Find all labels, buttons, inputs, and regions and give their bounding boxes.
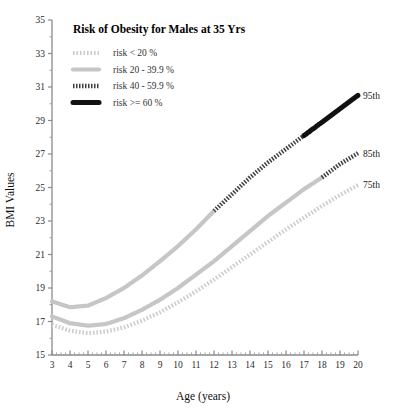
x-tick-label: 15 [263, 360, 273, 370]
y-tick-label: 17 [36, 317, 46, 327]
x-tick-label: 9 [158, 360, 163, 370]
curves-group [52, 95, 358, 333]
x-axis-title: Age (years) [176, 390, 230, 403]
legend-label-1: risk 20 - 39.9 % [113, 65, 174, 75]
curve-segment-85th-dark-hatch [322, 153, 358, 177]
legend-label-2: risk 40 - 59.9 % [113, 81, 174, 91]
curve-segment-95th-solid-thick [304, 95, 358, 135]
x-tick-label: 3 [50, 360, 55, 370]
series-95th [52, 95, 358, 307]
x-tick-label: 12 [209, 360, 219, 370]
legend-label-0: risk < 20 % [113, 48, 157, 58]
x-tick-label: 17 [299, 360, 309, 370]
x-tick-label: 19 [335, 360, 345, 370]
x-tick-label: 16 [281, 360, 291, 370]
y-tick-label: 29 [36, 116, 46, 126]
x-tick-label: 18 [317, 360, 327, 370]
x-tick-label: 14 [245, 360, 255, 370]
curve-end-label-85th: 85th [363, 149, 380, 159]
chart-container: 1517192123252729313335345678910111213141… [0, 0, 405, 412]
y-tick-label: 21 [36, 250, 46, 260]
x-tick-label: 11 [191, 360, 200, 370]
legend-title: Risk of Obesity for Males at 35 Yrs [73, 23, 246, 36]
x-tick-label: 7 [122, 360, 127, 370]
legend-label-3: risk >= 60 % [113, 98, 163, 108]
series-75th [52, 185, 358, 333]
y-tick-label: 35 [36, 15, 46, 25]
x-tick-label: 4 [68, 360, 73, 370]
x-tick-label: 20 [353, 360, 363, 370]
curve-end-labels: 95th85th75th [363, 91, 380, 191]
y-axis-title: BMI Values [4, 172, 16, 228]
x-tick-label: 5 [86, 360, 91, 370]
curve-end-label-75th: 75th [363, 180, 380, 190]
x-tick-label: 13 [227, 360, 237, 370]
y-tick-label: 31 [36, 82, 46, 92]
y-tick-label: 25 [36, 183, 46, 193]
legend: Risk of Obesity for Males at 35 Yrs risk… [73, 23, 246, 108]
y-tick-label: 19 [36, 283, 46, 293]
y-tick-label: 15 [36, 350, 46, 360]
x-tick-label: 6 [104, 360, 109, 370]
y-tick-label: 23 [36, 216, 46, 226]
x-tick-label: 10 [173, 360, 183, 370]
curve-end-label-95th: 95th [363, 91, 380, 101]
curve-segment-75th-light-hatch [52, 185, 358, 333]
bmi-risk-chart: 1517192123252729313335345678910111213141… [0, 0, 405, 412]
y-tick-label: 33 [36, 49, 46, 59]
x-tick-label: 8 [140, 360, 145, 370]
legend-rows: risk < 20 %risk 20 - 39.9 %risk 40 - 59.… [73, 48, 174, 108]
y-tick-label: 27 [36, 149, 46, 159]
